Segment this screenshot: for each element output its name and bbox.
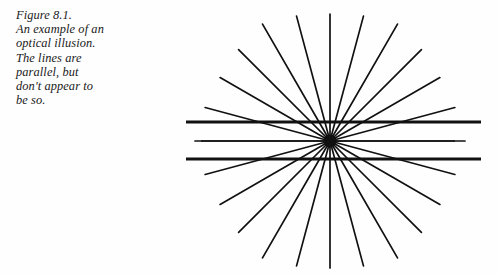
figure-page: Figure 8.1. An example of an optical ill… [0,0,499,275]
radiating-spoke [330,108,455,141]
center-dot [324,135,337,148]
hering-illusion-svg [0,0,499,275]
radiating-spoke [205,108,330,141]
optical-illusion-figure [0,0,499,275]
